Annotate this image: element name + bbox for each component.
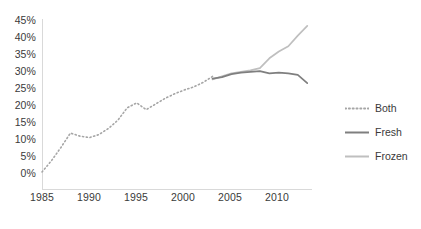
series-line-both — [42, 76, 213, 172]
line-chart: 45% 40% 35% 30% 25% 20% 15% 10% 5% 0% 19… — [0, 0, 421, 229]
legend-label-frozen: Frozen — [375, 150, 408, 162]
chart-legend: Both Fresh Frozen — [345, 96, 421, 168]
legend-label-fresh: Fresh — [375, 126, 402, 138]
legend-swatch-fresh-icon — [345, 127, 369, 138]
legend-item-frozen[interactable]: Frozen — [345, 144, 421, 168]
legend-label-both: Both — [375, 102, 397, 114]
legend-item-both[interactable]: Both — [345, 96, 421, 120]
legend-swatch-frozen-icon — [345, 151, 369, 162]
series-line-fresh — [213, 71, 308, 83]
legend-swatch-both-icon — [345, 103, 369, 114]
legend-item-fresh[interactable]: Fresh — [345, 120, 421, 144]
